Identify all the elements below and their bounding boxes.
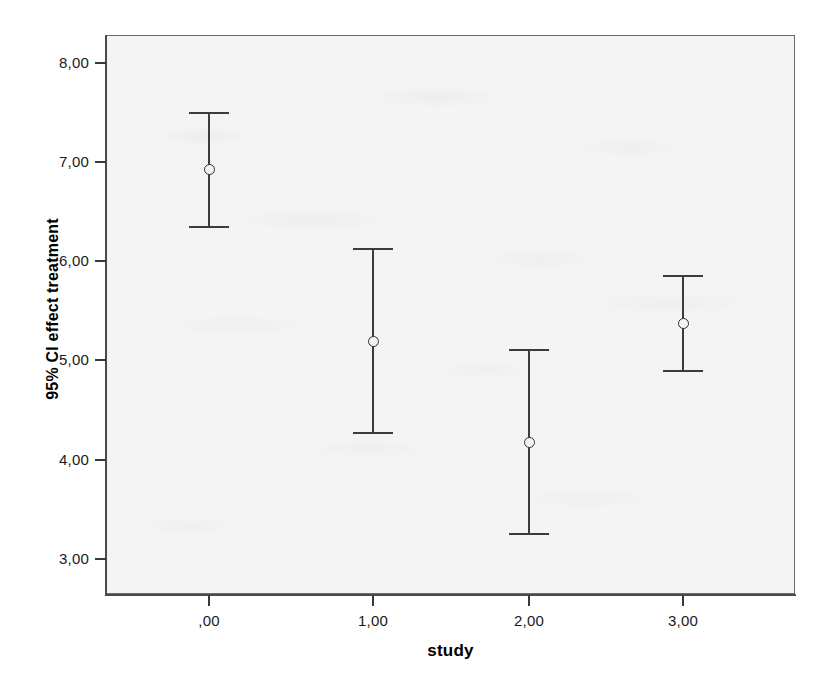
error-bar-study-2 <box>509 349 549 535</box>
y-tick-label-5: 5,00 <box>59 351 89 368</box>
error-bar-study-1 <box>353 248 393 434</box>
y-tick-label-8: 8,00 <box>59 54 89 71</box>
x-tick-label-1: 1,00 <box>358 612 388 629</box>
y-tick-label-7: 7,00 <box>59 153 89 170</box>
error-bar-lower-cap <box>509 533 549 535</box>
mean-marker <box>204 164 215 175</box>
x-axis-title: study <box>106 641 795 661</box>
y-tick-5 <box>95 359 106 361</box>
y-tick-8 <box>95 62 106 64</box>
y-axis-line <box>105 35 107 595</box>
y-tick-6 <box>95 260 106 262</box>
error-bar-study-0 <box>189 112 229 228</box>
error-bar-lower-cap <box>663 370 703 372</box>
x-tick-3 <box>682 595 684 606</box>
y-axis-title: 95% CI effect treatment <box>44 144 62 474</box>
y-tick-label-3: 3,00 <box>59 550 89 567</box>
mean-marker <box>368 336 379 347</box>
y-tick-4 <box>95 459 106 461</box>
error-bar-chart: 8,00 7,00 6,00 5,00 4,00 3,00 ,00 1,00 2… <box>0 0 837 685</box>
y-tick-3 <box>95 558 106 560</box>
y-tick-label-6: 6,00 <box>59 252 89 269</box>
error-bar-lower-cap <box>189 226 229 228</box>
error-bar-study-3 <box>663 275 703 372</box>
x-tick-1 <box>372 595 374 606</box>
x-tick-label-0: ,00 <box>198 612 219 629</box>
y-tick-7 <box>95 161 106 163</box>
mean-marker <box>524 437 535 448</box>
y-tick-label-4: 4,00 <box>59 451 89 468</box>
x-tick-0 <box>208 595 210 606</box>
error-bar-lower-cap <box>353 432 393 434</box>
mean-marker <box>678 318 689 329</box>
x-tick-label-3: 3,00 <box>668 612 698 629</box>
x-tick-label-2: 2,00 <box>514 612 544 629</box>
x-tick-2 <box>528 595 530 606</box>
